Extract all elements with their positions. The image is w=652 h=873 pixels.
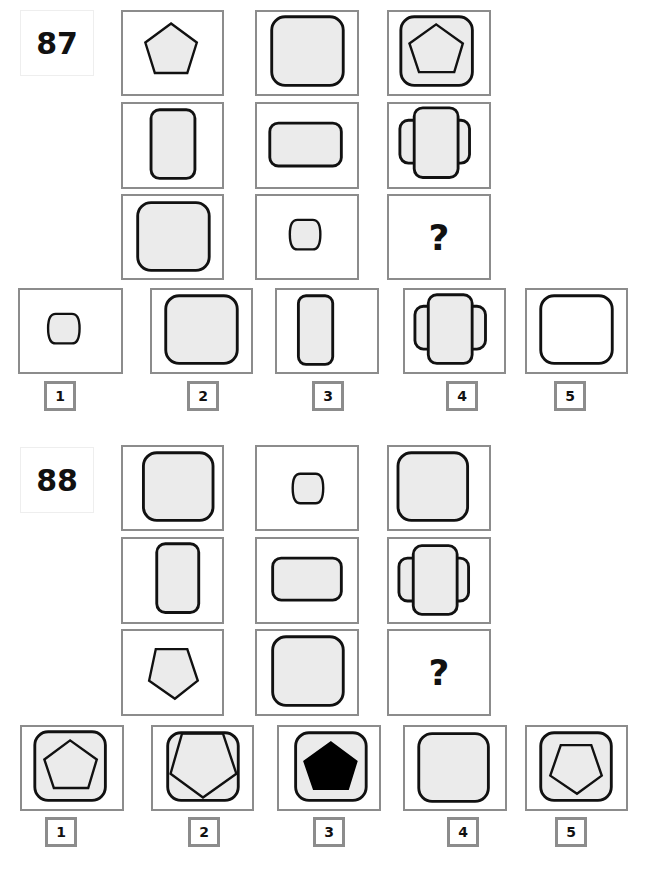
option-label-5: 5 (555, 817, 587, 847)
pentagon-icon (123, 12, 222, 94)
rounded-square-icon (257, 631, 357, 714)
matrix-cell-tall-rect (121, 102, 224, 189)
rounded-square-icon (123, 447, 222, 529)
matrix-cell-question: ? (387, 629, 491, 716)
matrix-cell-small-barrel (255, 194, 359, 280)
puzzle-number: 88 (20, 447, 94, 513)
puzzle-number: 87 (20, 10, 94, 76)
rounded-square-inverted-pentagon-icon (527, 727, 626, 809)
rounded-square-large-inverted-pentagon-icon (153, 727, 252, 809)
matrix-cell-big-rounded-square (255, 10, 359, 96)
answer-option-2[interactable] (151, 725, 254, 811)
cross-rects-icon (389, 104, 489, 187)
matrix-cell-square-with-pentagon (387, 10, 491, 96)
answer-option-3[interactable] (277, 725, 381, 811)
rounded-square-black-pentagon-icon (279, 727, 379, 809)
matrix-cell-inverted-pentagon (121, 629, 224, 716)
tall-rounded-rect-icon (123, 104, 222, 187)
matrix-cell-big-rounded-square (387, 445, 491, 531)
matrix-cell-question: ? (387, 194, 491, 280)
answer-option-1[interactable] (20, 725, 124, 811)
option-label-5: 5 (554, 381, 586, 411)
barrel-icon (20, 290, 121, 372)
matrix-cell-big-rounded-square (255, 629, 359, 716)
answer-option-2[interactable] (150, 288, 253, 374)
wide-rounded-rect-icon (257, 539, 357, 622)
rounded-square-pentagon-icon (389, 12, 489, 94)
cross-rects-icon (389, 539, 489, 622)
option-label-1: 1 (44, 381, 76, 411)
option-label-2: 2 (187, 381, 219, 411)
question-mark: ? (389, 196, 489, 278)
matrix-cell-wide-rect (255, 537, 359, 624)
matrix-cell-small-barrel (255, 445, 359, 531)
tall-rounded-rect-icon (277, 290, 377, 372)
matrix-cell-cross-rects (387, 102, 491, 189)
rounded-square-pentagon-icon (22, 727, 122, 809)
option-label-4: 4 (447, 817, 479, 847)
option-label-3: 3 (313, 817, 345, 847)
rounded-square-icon (405, 727, 505, 809)
answer-option-5[interactable] (525, 725, 628, 811)
answer-option-4[interactable] (403, 725, 507, 811)
option-label-1: 1 (45, 817, 77, 847)
tall-rounded-rect-icon (123, 539, 222, 622)
matrix-cell-pentagon (121, 10, 224, 96)
matrix-cell-wide-rect (255, 102, 359, 189)
matrix-cell-tall-rect (121, 537, 224, 624)
rounded-square-outline-icon (527, 290, 626, 372)
answer-option-1[interactable] (18, 288, 123, 374)
option-label-2: 2 (188, 817, 220, 847)
question-mark: ? (389, 631, 489, 714)
barrel-icon (257, 447, 357, 529)
barrel-icon (257, 196, 357, 278)
matrix-cell-big-rounded-square (121, 445, 224, 531)
option-label-3: 3 (312, 381, 344, 411)
matrix-cell-big-rounded-square (121, 194, 224, 280)
rounded-square-icon (257, 12, 357, 94)
option-label-4: 4 (446, 381, 478, 411)
answer-option-5[interactable] (525, 288, 628, 374)
rounded-square-icon (123, 196, 222, 278)
rounded-square-icon (389, 447, 489, 529)
matrix-cell-cross-rects (387, 537, 491, 624)
answer-option-3[interactable] (275, 288, 379, 374)
inverted-pentagon-icon (123, 631, 222, 714)
rounded-square-icon (152, 290, 251, 372)
cross-rects-icon (405, 290, 504, 372)
wide-rounded-rect-icon (257, 104, 357, 187)
answer-option-4[interactable] (403, 288, 506, 374)
